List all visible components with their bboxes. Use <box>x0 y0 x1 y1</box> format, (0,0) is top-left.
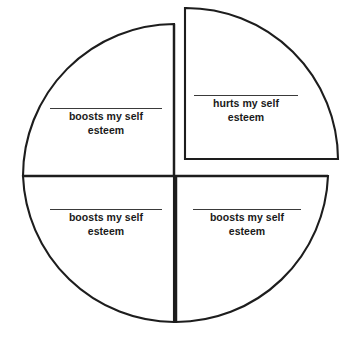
pie-slice-top-right-exploded[interactable] <box>185 8 338 159</box>
worksheet-canvas: boosts my self esteem hurts my self este… <box>0 0 355 339</box>
blank-answer-line-bottom-left[interactable] <box>50 209 162 210</box>
slice-label-bottom-right-line2: esteem <box>186 225 308 239</box>
slice-label-top-right-line2: esteem <box>191 111 301 125</box>
pie-chart-figure <box>0 0 355 339</box>
slice-label-bottom-right: boosts my self esteem <box>186 209 308 238</box>
slice-label-top-left: boosts my self esteem <box>44 108 168 137</box>
slice-label-bottom-left: boosts my self esteem <box>44 209 168 238</box>
slice-label-top-right-line1: hurts my self <box>191 97 301 111</box>
pie-slice-top-left[interactable] <box>23 24 174 176</box>
pie-slice-bottom-right[interactable] <box>176 176 328 322</box>
slice-label-top-right: hurts my self esteem <box>191 95 301 124</box>
pie-slice-bottom-left[interactable] <box>23 176 174 322</box>
slice-label-bottom-left-line1: boosts my self <box>44 211 168 225</box>
blank-answer-line-bottom-right[interactable] <box>193 209 301 210</box>
slice-label-top-left-line2: esteem <box>44 124 168 138</box>
slice-label-bottom-left-line2: esteem <box>44 225 168 239</box>
slice-label-bottom-right-line1: boosts my self <box>186 211 308 225</box>
slice-label-top-left-line1: boosts my self <box>44 110 168 124</box>
blank-answer-line-top-left[interactable] <box>50 108 162 109</box>
blank-answer-line-top-right[interactable] <box>194 95 298 96</box>
